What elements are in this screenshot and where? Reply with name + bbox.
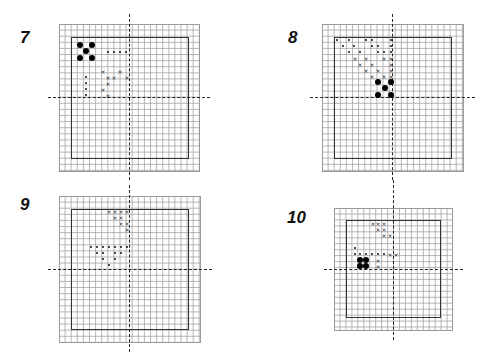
small-dot-marker [390, 51, 392, 53]
x-stitch-marker: × [125, 221, 130, 226]
large-dot-marker [83, 48, 89, 54]
x-stitch-marker: × [370, 74, 375, 79]
x-stitch-marker: × [358, 62, 363, 67]
x-stitch-marker: × [107, 209, 112, 214]
figure-number: 9 [20, 195, 29, 215]
small-dot-marker [96, 252, 98, 254]
large-dot-marker [89, 55, 95, 61]
small-dot-marker [365, 39, 367, 41]
x-stitch-marker: × [389, 62, 394, 67]
x-stitch-marker: × [125, 209, 130, 214]
small-dot-marker [126, 246, 128, 248]
large-dot-marker [89, 42, 95, 48]
x-stitch-marker: × [353, 56, 358, 61]
small-dot-marker [354, 247, 356, 249]
small-dot-marker [371, 45, 373, 47]
large-dot-marker [77, 55, 83, 61]
large-dot-marker [375, 79, 381, 85]
x-stitch-marker: × [370, 62, 375, 67]
x-stitch-marker: × [389, 68, 394, 73]
small-dot-marker [119, 51, 121, 53]
large-dot-marker [382, 85, 388, 91]
x-stitch-marker: × [113, 215, 118, 220]
small-dot-marker [348, 39, 350, 41]
x-stitch-marker: × [125, 227, 130, 232]
small-dot-marker [114, 258, 116, 260]
small-dot-marker [125, 51, 127, 53]
small-dot-marker [85, 94, 87, 96]
x-stitch-marker: × [394, 252, 399, 257]
x-stitch-marker: × [389, 74, 394, 79]
small-dot-marker [108, 246, 110, 248]
large-dot-marker [388, 92, 394, 98]
x-stitch-marker: × [376, 68, 381, 73]
small-dot-marker [365, 253, 367, 255]
x-stitch-marker: × [106, 81, 111, 86]
figure-number: 10 [287, 208, 306, 228]
x-stitch-marker: × [106, 75, 111, 80]
x-stitch-marker: × [389, 56, 394, 61]
x-stitch-marker: × [106, 93, 111, 98]
x-stitch-marker: × [125, 75, 130, 80]
small-dot-marker [359, 51, 361, 53]
small-dot-marker [85, 88, 87, 90]
small-dot-marker [113, 51, 115, 53]
figure-number: 8 [288, 28, 297, 48]
small-dot-marker [354, 253, 356, 255]
small-dot-marker [359, 253, 361, 255]
small-dot-marker [102, 258, 104, 260]
horizontal-center-axis [324, 269, 463, 270]
x-stitch-marker: × [382, 233, 387, 238]
x-stitch-marker: × [376, 227, 381, 232]
small-dot-marker [383, 253, 385, 255]
x-stitch-marker: × [119, 209, 124, 214]
x-stitch-marker: × [376, 221, 381, 226]
x-stitch-marker: × [101, 87, 106, 92]
x-stitch-marker: × [118, 69, 123, 74]
small-dot-marker [107, 51, 109, 53]
large-dot-marker [388, 79, 394, 85]
small-dot-marker [371, 39, 373, 41]
small-dot-marker [377, 51, 379, 53]
small-dot-marker [342, 45, 344, 47]
large-dot-marker [363, 263, 369, 269]
small-dot-marker [114, 246, 116, 248]
small-dot-marker [377, 253, 379, 255]
small-dot-marker [85, 76, 87, 78]
horizontal-center-axis [48, 97, 210, 98]
x-stitch-marker: × [376, 264, 381, 269]
x-stitch-marker: × [113, 209, 118, 214]
small-dot-marker [96, 246, 98, 248]
x-stitch-marker: × [101, 69, 106, 74]
small-dot-marker [120, 246, 122, 248]
x-stitch-marker: × [388, 252, 393, 257]
x-stitch-marker: × [382, 74, 387, 79]
large-dot-marker [77, 42, 83, 48]
small-dot-marker [114, 252, 116, 254]
small-dot-marker [390, 39, 392, 41]
small-dot-marker [90, 246, 92, 248]
large-dot-marker [375, 92, 381, 98]
small-dot-marker [102, 246, 104, 248]
small-dot-marker [390, 45, 392, 47]
small-dot-marker [102, 252, 104, 254]
figure-number: 7 [20, 28, 29, 48]
small-dot-marker [371, 253, 373, 255]
small-dot-marker [108, 264, 110, 266]
x-stitch-marker: × [112, 75, 117, 80]
small-dot-marker [353, 45, 355, 47]
x-stitch-marker: × [382, 56, 387, 61]
x-stitch-marker: × [382, 227, 387, 232]
small-dot-marker [348, 51, 350, 53]
small-dot-marker [85, 82, 87, 84]
x-stitch-marker: × [364, 68, 369, 73]
x-stitch-marker: × [382, 221, 387, 226]
x-stitch-marker: × [376, 258, 381, 263]
small-dot-marker [383, 51, 385, 53]
small-dot-marker [336, 39, 338, 41]
vertical-center-axis [393, 180, 394, 340]
horizontal-center-axis [48, 269, 212, 270]
x-stitch-marker: × [119, 215, 124, 220]
x-stitch-marker: × [119, 221, 124, 226]
small-dot-marker [120, 252, 122, 254]
